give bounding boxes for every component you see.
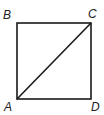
vertex-label-d: D (91, 101, 100, 113)
vertex-label-a: A (4, 101, 12, 113)
diagonal-ac (17, 23, 91, 99)
vertex-label-b: B (3, 9, 11, 21)
vertex-label-c: C (88, 8, 97, 20)
